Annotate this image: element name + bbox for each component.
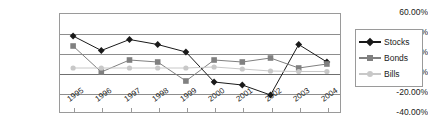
data-point: [70, 43, 76, 49]
chart-legend: StocksBondsBills: [355, 29, 423, 87]
legend-label: Bonds: [381, 54, 408, 63]
legend-label: Stocks: [381, 38, 410, 47]
data-point: [211, 57, 217, 63]
circle-marker-icon: [359, 68, 381, 80]
data-point: [295, 41, 302, 48]
data-point: [240, 66, 245, 71]
data-point: [70, 33, 77, 40]
data-point: [71, 65, 76, 70]
legend-item-stocks[interactable]: Stocks: [359, 34, 419, 50]
square-marker-icon: [359, 52, 381, 64]
data-point: [268, 68, 273, 73]
data-point: [212, 64, 217, 69]
y-axis-tick-label: -20.00%: [373, 88, 428, 97]
series-bills: [71, 64, 330, 74]
data-point: [155, 65, 160, 70]
series-line: [73, 46, 327, 81]
data-point: [183, 78, 189, 84]
series-bonds: [70, 43, 329, 84]
data-point: [98, 47, 105, 54]
data-point: [155, 59, 161, 65]
legend-item-bonds[interactable]: Bonds: [359, 50, 419, 66]
data-point: [127, 65, 132, 70]
data-point: [240, 59, 246, 65]
data-point: [154, 41, 161, 48]
data-point: [324, 69, 329, 74]
data-point: [324, 61, 330, 67]
data-point: [183, 65, 188, 70]
data-point: [268, 55, 274, 61]
data-point: [127, 57, 133, 63]
y-axis-tick-label: -40.00%: [373, 108, 428, 117]
legend-label: Bills: [381, 70, 400, 79]
series-line: [73, 36, 327, 95]
y-axis-tick-label: 60.00%: [373, 8, 428, 17]
investment-returns-line-chart: 60.00%40.00%20.00%0.00%-20.00%-40.00% 19…: [0, 0, 428, 125]
diamond-marker-icon: [359, 36, 381, 48]
data-point: [296, 69, 301, 74]
data-point: [99, 65, 104, 70]
legend-item-bills[interactable]: Bills: [359, 66, 419, 82]
data-point: [126, 36, 133, 43]
